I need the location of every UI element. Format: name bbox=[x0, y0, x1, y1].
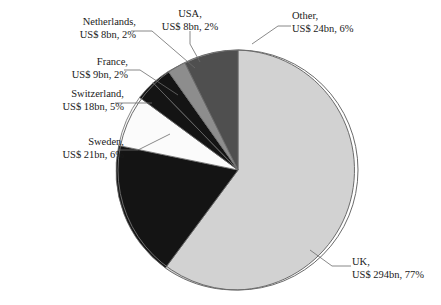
pie-label-usa: USA, US$ 8bn, 2% bbox=[144, 8, 236, 33]
pie-label-france-name: France, bbox=[28, 56, 128, 69]
pie-label-other-value: US$ 24bn, 6% bbox=[292, 23, 402, 36]
pie-label-switzerland-value: US$ 18bn, 5% bbox=[6, 101, 124, 114]
pie-label-france-value: US$ 9bn, 2% bbox=[28, 69, 128, 82]
pie-label-netherlands: Netherlands, US$ 8bn, 2% bbox=[36, 16, 136, 41]
pie-slices bbox=[116, 50, 358, 290]
pie-label-netherlands-name: Netherlands, bbox=[36, 16, 136, 29]
pie-label-other: Other, US$ 24bn, 6% bbox=[292, 10, 402, 35]
pie-label-sweden-name: Sweden, bbox=[24, 136, 124, 149]
pie-label-uk: UK, US$ 294bn, 77% bbox=[352, 256, 441, 281]
pie-label-usa-value: US$ 8bn, 2% bbox=[144, 21, 236, 34]
pie-label-france: France, US$ 9bn, 2% bbox=[28, 56, 128, 81]
pie-label-switzerland-name: Switzerland, bbox=[6, 88, 124, 101]
pie-label-uk-name: UK, bbox=[352, 256, 441, 269]
pie-label-sweden: Sweden, US$ 21bn, 6% bbox=[24, 136, 124, 161]
pie-label-switzerland: Switzerland, US$ 18bn, 5% bbox=[6, 88, 124, 113]
pie-chart-figure: Netherlands, US$ 8bn, 2% France, US$ 9bn… bbox=[0, 0, 441, 305]
pie-label-uk-value: US$ 294bn, 77% bbox=[352, 269, 441, 282]
pie-label-netherlands-value: US$ 8bn, 2% bbox=[36, 29, 136, 42]
leader-line-other bbox=[252, 26, 291, 44]
pie-label-sweden-value: US$ 21bn, 6% bbox=[24, 149, 124, 162]
pie-label-other-name: Other, bbox=[292, 10, 402, 23]
pie-label-usa-name: USA, bbox=[144, 8, 236, 21]
